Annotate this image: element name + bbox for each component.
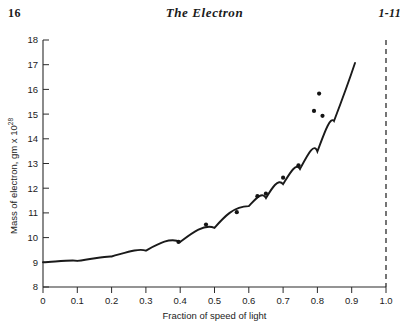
data-point	[255, 194, 259, 198]
data-point	[235, 210, 239, 214]
data-point	[296, 163, 300, 167]
data-point-group	[176, 92, 324, 244]
x-tick-label: 0.2	[105, 295, 118, 306]
y-tick-label: 8	[33, 281, 38, 292]
y-tick-label: 18	[27, 34, 38, 45]
x-tick-label: 0	[40, 295, 45, 306]
data-point	[281, 176, 285, 180]
data-point	[320, 114, 324, 118]
y-tick-label: 9	[33, 257, 38, 268]
data-point	[204, 223, 208, 227]
x-axis-tick-labels: 0 0.1 0.2 0.3 0.4 0.5 0.6 0.7 0.8 0.9 1.…	[40, 295, 392, 306]
x-tick-label: 0.4	[174, 295, 187, 306]
data-point	[176, 240, 180, 244]
y-axis-ticks	[43, 40, 49, 287]
x-tick-label: 0.3	[139, 295, 152, 306]
x-tick-label: 0.1	[71, 295, 84, 306]
x-axis-title: Fraction of speed of light	[162, 310, 266, 321]
x-tick-label: 0.5	[208, 295, 221, 306]
y-axis-title-main: Mass of electron, gm x 10	[8, 125, 19, 234]
y-tick-label: 17	[27, 59, 38, 70]
y-axis-title: Mass of electron, gm x 1028	[7, 118, 19, 234]
x-tick-label: 0.6	[242, 295, 255, 306]
y-tick-label: 11	[28, 207, 38, 218]
y-axis-tick-labels: 8 9 10 11 12 13 14 15 16 17 18	[27, 34, 38, 292]
y-tick-label: 16	[27, 84, 38, 95]
data-point	[312, 109, 316, 113]
x-tick-label: 0.7	[276, 295, 289, 306]
x-tick-label: 0.8	[311, 295, 324, 306]
data-point	[264, 192, 268, 196]
relativistic-mass-curve	[43, 63, 355, 262]
y-tick-label: 15	[27, 109, 38, 120]
data-point	[317, 92, 321, 96]
page-running-head: 16 The Electron 1-11	[0, 0, 409, 26]
x-tick-label: 0.9	[345, 295, 358, 306]
y-axis-title-exponent: 28	[7, 118, 14, 126]
page-section-number: 1-11	[378, 6, 401, 21]
x-axis-ticks	[43, 287, 386, 293]
figure-electron-mass-vs-speed: 8 9 10 11 12 13 14 15 16 17 18	[0, 26, 409, 324]
y-tick-label: 13	[27, 158, 38, 169]
y-tick-label: 10	[27, 232, 38, 243]
x-tick-label: 1.0	[379, 295, 392, 306]
y-tick-label: 14	[27, 133, 38, 144]
y-tick-label: 12	[27, 183, 38, 194]
svg-text:Mass of electron, gm x 1028: Mass of electron, gm x 1028	[7, 118, 19, 234]
page-running-title: The Electron	[0, 5, 409, 21]
plot-axes	[43, 40, 386, 287]
